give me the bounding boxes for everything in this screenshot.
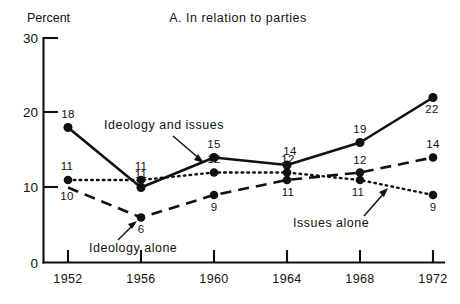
value-label-ideology-and-issues-1972: 22 (425, 103, 438, 115)
data-point-ideology-alone-1960 (210, 191, 219, 200)
data-point-issues-alone-1960 (210, 168, 219, 177)
y-tick-label-0: 0 (30, 256, 38, 271)
value-label-ideology-alone-1968: 12 (353, 154, 366, 166)
value-label-ideology-alone-1972: 14 (426, 138, 440, 150)
x-tick-label-1952: 1952 (53, 272, 82, 286)
value-label-ideology-and-issues-1968: 19 (353, 123, 366, 135)
value-label-issues-alone-1964: 12 (281, 153, 294, 165)
value-label-ideology-and-issues-1952: 18 (61, 108, 74, 120)
x-tick-label-1964: 1964 (272, 272, 301, 286)
series-line-ideology-alone (68, 158, 433, 218)
data-point-issues-alone-1952 (64, 176, 73, 185)
series-line-issues-alone (68, 173, 433, 196)
y-axis-title: Percent (27, 11, 71, 25)
y-tick-label-10: 10 (23, 180, 38, 195)
annotation-label-ideology-and-issues: Ideology and issues (104, 118, 224, 132)
value-label-issues-alone-1960: 12 (207, 153, 220, 165)
value-label-ideology-alone-1964: 11 (282, 186, 295, 198)
y-tick-label-30: 30 (23, 31, 38, 46)
data-point-ideology-alone-1972 (429, 153, 438, 162)
annotation-arrow-issues-alone (364, 192, 385, 216)
value-label-ideology-and-issues-1960: 15 (207, 138, 220, 150)
data-point-ideology-and-issues-1972 (429, 93, 438, 102)
chart-figure: A. In relation to parties Percent 30 20 … (0, 0, 460, 304)
annotation-arrowhead-issues-alone (379, 188, 388, 197)
chart-title: A. In relation to parties (169, 11, 307, 25)
data-point-ideology-and-issues-1956 (137, 183, 146, 192)
x-tick-label-1972: 1972 (418, 272, 447, 286)
x-tick-label-1968: 1968 (345, 272, 374, 286)
value-label-ideology-alone-1952: 10 (60, 190, 73, 202)
value-label-ideology-alone-1960: 9 (211, 201, 218, 213)
data-point-ideology-alone-1968 (356, 168, 365, 177)
data-point-ideology-alone-1964 (283, 176, 292, 185)
chart-canvas: A. In relation to parties Percent 30 20 … (0, 0, 460, 304)
value-label-issues-alone-1952: 11 (61, 160, 74, 172)
x-tick-label-1956: 1956 (126, 272, 155, 286)
data-point-issues-alone-1968 (356, 176, 365, 185)
value-label-issues-alone-1968: 11 (352, 186, 365, 198)
data-point-issues-alone-1972 (429, 191, 438, 200)
data-point-ideology-and-issues-1952 (64, 123, 73, 132)
value-label-ideology-alone-1956: 6 (138, 223, 145, 235)
value-label-issues-alone-1956: 11 (135, 160, 148, 172)
y-tick-label-20: 20 (23, 105, 38, 120)
data-point-ideology-alone-1956 (137, 213, 146, 222)
data-point-ideology-and-issues-1968 (356, 138, 365, 147)
series-line-ideology-and-issues (68, 98, 433, 188)
annotation-label-issues-alone: Issues alone (293, 216, 369, 230)
x-tick-label-1960: 1960 (199, 272, 228, 286)
annotation-label-ideology-alone: Ideology alone (89, 241, 177, 255)
value-label-issues-alone-1972: 9 (430, 201, 437, 213)
